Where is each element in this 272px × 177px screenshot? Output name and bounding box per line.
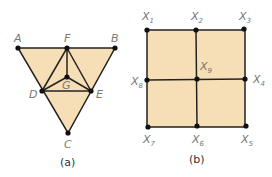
label-x4: X4 <box>252 73 265 88</box>
node-x3 <box>241 26 246 31</box>
label-x2: X2 <box>190 10 204 25</box>
node-x2 <box>193 27 198 32</box>
caption-a: (a) <box>60 156 75 169</box>
label-c: C <box>64 138 72 151</box>
vertex-d <box>39 88 44 93</box>
caption-b: (b) <box>189 153 205 166</box>
vertex-c <box>65 130 70 135</box>
diagram-canvas: A F B G D E C (a) X1 X2 X3 X4 X5 X6 X7 X… <box>0 0 272 177</box>
label-x3: X3 <box>238 10 251 25</box>
node-x8 <box>144 77 149 82</box>
label-a: A <box>13 32 22 45</box>
label-g: G <box>62 79 71 92</box>
node-x9 <box>194 76 199 81</box>
label-x5: X5 <box>240 133 254 148</box>
node-x7 <box>145 124 150 129</box>
vertex-a <box>15 45 20 50</box>
label-x1: X1 <box>141 10 154 25</box>
label-x8: X8 <box>130 75 144 90</box>
node-x4 <box>242 76 247 81</box>
label-b: B <box>111 32 119 45</box>
vertex-f <box>64 45 69 50</box>
figure-b-grid: X1 X2 X3 X4 X5 X6 X7 X8 X9 (b) <box>130 10 265 166</box>
label-d: D <box>29 88 37 101</box>
label-f: F <box>64 32 71 45</box>
vertex-e <box>88 88 93 93</box>
label-x7: X7 <box>142 133 156 148</box>
label-e: E <box>96 88 103 101</box>
figure-a-triangle: A F B G D E C (a) <box>13 32 119 169</box>
node-x6 <box>194 123 199 128</box>
node-x1 <box>144 27 149 32</box>
node-x5 <box>243 123 248 128</box>
vertex-b <box>112 45 117 50</box>
label-x6: X6 <box>191 133 205 148</box>
